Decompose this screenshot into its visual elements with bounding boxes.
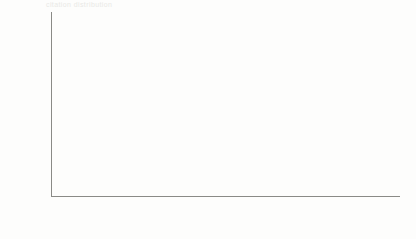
plot-area: citation distribution — [0, 0, 416, 239]
clipped-header-text: citation distribution — [46, 1, 112, 8]
citation-frequency-chart: citation distribution — [0, 0, 416, 239]
